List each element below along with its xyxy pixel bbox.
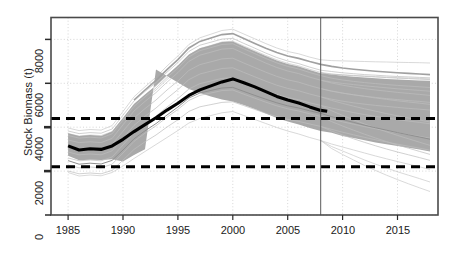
x-tick-label-2015: 2015 xyxy=(378,224,418,236)
x-tick-label-2005: 2005 xyxy=(268,224,308,236)
y-tick-label-4000: 4000 xyxy=(33,129,45,169)
x-tick-label-1995: 1995 xyxy=(158,224,198,236)
x-tick-label-2000: 2000 xyxy=(213,224,253,236)
x-tick-label-2010: 2010 xyxy=(323,224,363,236)
y-tick-label-2000: 2000 xyxy=(33,173,45,213)
y-tick-label-6000: 6000 xyxy=(33,85,45,125)
x-tick-label-1985: 1985 xyxy=(48,224,88,236)
stock-biomass-projection-figure: Stock Biomass (t) 0 2000 4000 6000 8000 … xyxy=(0,0,460,264)
y-tick-label-0: 0 xyxy=(33,217,45,257)
y-tick-label-8000: 8000 xyxy=(33,41,45,81)
y-axis-ticks xyxy=(44,39,51,215)
x-tick-label-1990: 1990 xyxy=(103,224,143,236)
